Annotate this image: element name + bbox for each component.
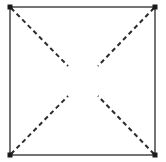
figure-root: Square frame with dashed diagonals	[0, 0, 166, 162]
corner-mark-bottom-left	[8, 153, 13, 158]
corner-mark-bottom-right	[153, 153, 158, 158]
corner-mark-top-right	[153, 5, 158, 10]
square-dashed-diagonals-figure	[0, 0, 166, 162]
corner-mark-top-left	[8, 5, 13, 10]
center-blank-area	[68, 66, 98, 96]
